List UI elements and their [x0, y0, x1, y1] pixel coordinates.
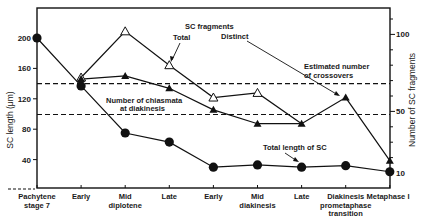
x-category-label: Early: [204, 192, 223, 201]
filled-circle-marker: [32, 33, 41, 42]
filled-circle-marker: [297, 163, 306, 172]
data-markers: [32, 27, 394, 177]
right-tick-label: 50: [396, 107, 405, 116]
left-tick-label: 80: [22, 125, 31, 134]
x-category-label: diakinesis: [239, 201, 275, 210]
right-tick-label: 100: [396, 30, 410, 39]
left-tick-label: 160: [18, 64, 32, 73]
annotation-distinct: Distinct: [221, 32, 249, 41]
filled-circle-marker: [121, 128, 130, 137]
annotation-crossovers-2: of crossovers: [304, 71, 353, 80]
filled-circle-marker: [341, 161, 350, 170]
filled-circle-marker: [253, 160, 262, 169]
left-axis-title: SC length (μm): [5, 91, 15, 148]
series-line: [37, 38, 390, 172]
annotation-total-length: Total length of SC: [263, 143, 327, 152]
x-category-label: Early: [72, 192, 91, 201]
annotation-crossovers-1: Estimated number: [304, 62, 370, 71]
x-category-label: diplotene: [109, 201, 142, 210]
filled-triangle-marker: [342, 94, 350, 101]
chart: 2001601208040 1005010 SC length (μm) Num…: [0, 0, 421, 220]
open-triangle-marker: [121, 27, 130, 35]
total-length-arrowhead-icon: [293, 157, 299, 162]
x-category-label: Metaphase I: [367, 192, 410, 201]
left-axis-ticks: 2001601208040: [18, 34, 37, 165]
open-triangle-marker: [253, 88, 262, 96]
left-tick-label: 120: [18, 95, 32, 104]
x-axis-labels: Pachytenestage 7EarlyMiddiploteneLateEar…: [18, 192, 409, 218]
filled-triangle-marker: [121, 72, 129, 79]
series-line: [81, 76, 390, 161]
filled-circle-marker: [385, 167, 394, 176]
annotation-sc-fragments: SC fragments: [185, 22, 234, 31]
annotation-chiasmata-2: at diakinesis: [120, 104, 165, 113]
filled-circle-marker: [165, 138, 174, 147]
x-category-label: Late: [294, 192, 309, 201]
series-line: [81, 31, 302, 123]
left-tick-label: 40: [22, 156, 31, 165]
right-tick-label: 10: [396, 169, 405, 178]
distinct-arrowhead-icon: [334, 91, 340, 96]
x-category-label: transition: [329, 209, 364, 218]
annotation-total: Total: [173, 33, 190, 42]
left-tick-label: 200: [18, 34, 32, 43]
x-category-label: stage 7: [24, 201, 50, 210]
right-axis-title: Number of SC fragments: [407, 53, 417, 147]
filled-circle-marker: [209, 163, 218, 172]
x-category-label: Late: [162, 192, 177, 201]
total-arrowhead-icon: [170, 56, 174, 62]
filled-circle-marker: [77, 81, 86, 90]
open-triangle-marker: [165, 61, 174, 69]
filled-triangle-marker: [209, 106, 217, 113]
